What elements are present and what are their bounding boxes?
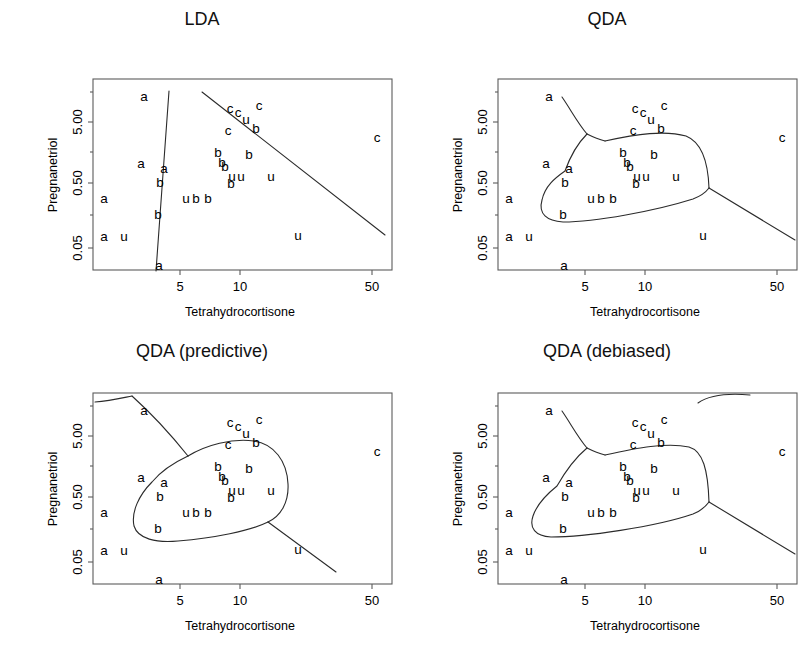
data-point-c: c bbox=[256, 412, 263, 427]
data-point-b: b bbox=[561, 489, 569, 504]
data-point-a: a bbox=[545, 403, 553, 418]
data-point-c: c bbox=[630, 437, 637, 452]
plot-qda: 5 10 50 Tetrahydrocortisone 5.00 0.50 0.… bbox=[405, 0, 809, 331]
data-point-u: u bbox=[647, 112, 655, 127]
qda-debiased-a-upper bbox=[562, 411, 587, 448]
data-point-c: c bbox=[374, 444, 381, 459]
y-axis-ticks bbox=[88, 406, 93, 562]
data-point-a: a bbox=[505, 191, 513, 206]
data-point-b: b bbox=[192, 505, 200, 520]
data-point-u: u bbox=[267, 169, 275, 184]
data-point-c: c bbox=[225, 437, 232, 452]
data-point-a: a bbox=[560, 258, 568, 273]
x-tick-label-10: 10 bbox=[638, 279, 652, 294]
data-point-b: b bbox=[156, 175, 164, 190]
panel-lda: LDA 5 10 50 Tetrahydrocortisone 5.00 0.5… bbox=[0, 0, 404, 331]
y-tick-label-005: 0.05 bbox=[475, 235, 490, 260]
x-tick-label-50: 50 bbox=[365, 593, 379, 608]
y-tick-label-500: 5.00 bbox=[70, 109, 85, 134]
x-tick-label-5: 5 bbox=[176, 279, 183, 294]
y-axis-ticks bbox=[493, 406, 498, 562]
data-point-b: b bbox=[252, 121, 260, 136]
data-point-u: u bbox=[672, 169, 680, 184]
y-tick-label-050: 0.50 bbox=[70, 484, 85, 509]
y-axis-title: Pregnanetriol bbox=[46, 452, 60, 526]
data-point-c: c bbox=[630, 123, 637, 138]
data-point-u: u bbox=[699, 542, 707, 557]
plot-lda: 5 10 50 Tetrahydrocortisone 5.00 0.50 0.… bbox=[0, 0, 404, 331]
x-tick-label-50: 50 bbox=[770, 279, 784, 294]
y-tick-label-500: 5.00 bbox=[70, 423, 85, 448]
data-point-c: c bbox=[225, 123, 232, 138]
y-tick-label-050: 0.50 bbox=[70, 170, 85, 195]
data-point-u: u bbox=[642, 169, 650, 184]
data-point-b: b bbox=[650, 461, 658, 476]
data-point-u: u bbox=[242, 426, 250, 441]
x-tick-label-50: 50 bbox=[365, 279, 379, 294]
data-point-a: a bbox=[155, 258, 163, 273]
data-point-a: a bbox=[545, 89, 553, 104]
data-point-c: c bbox=[661, 412, 668, 427]
x-axis-ticks bbox=[585, 270, 777, 275]
qda-debiased-lower-right bbox=[709, 502, 795, 554]
data-point-u: u bbox=[633, 483, 641, 498]
data-point-b: b bbox=[597, 191, 605, 206]
data-point-a: a bbox=[137, 156, 145, 171]
y-tick-label-050: 0.50 bbox=[475, 484, 490, 509]
data-point-c: c bbox=[235, 419, 242, 434]
y-axis-title: Pregnanetriol bbox=[451, 138, 465, 212]
data-point-u: u bbox=[267, 483, 275, 498]
x-tick-label-10: 10 bbox=[638, 593, 652, 608]
data-point-u: u bbox=[294, 228, 302, 243]
panel-qda-predictive: QDA (predictive) 5 10 50 Tetrahydrocorti… bbox=[0, 332, 404, 663]
y-tick-label-005: 0.05 bbox=[70, 235, 85, 260]
data-point-u: u bbox=[120, 543, 128, 558]
data-point-a: a bbox=[560, 572, 568, 587]
data-points: a a a a a a b b b b b b b b b b c c c c … bbox=[505, 89, 785, 273]
x-tick-label-50: 50 bbox=[770, 593, 784, 608]
qda-boundary-lower-right bbox=[709, 188, 795, 240]
data-point-c: c bbox=[227, 101, 234, 116]
data-point-c: c bbox=[227, 415, 234, 430]
data-point-a: a bbox=[140, 89, 148, 104]
x-axis-title: Tetrahydrocortisone bbox=[185, 305, 295, 319]
data-point-b: b bbox=[609, 505, 617, 520]
x-tick-label-5: 5 bbox=[581, 279, 588, 294]
qda-debiased-top-right-arc bbox=[698, 394, 750, 403]
plot-qda-debiased: 5 10 50 Tetrahydrocortisone 5.00 0.50 0.… bbox=[405, 332, 809, 663]
data-point-b: b bbox=[561, 175, 569, 190]
data-point-a: a bbox=[100, 229, 108, 244]
data-point-u: u bbox=[672, 483, 680, 498]
data-point-u: u bbox=[294, 542, 302, 557]
x-axis-title: Tetrahydrocortisone bbox=[590, 305, 700, 319]
data-point-c: c bbox=[779, 130, 786, 145]
data-points: a a a a a a b b b b b b b b b b c c c c … bbox=[100, 89, 380, 273]
data-point-b: b bbox=[657, 121, 665, 136]
data-point-u: u bbox=[237, 483, 245, 498]
x-tick-label-5: 5 bbox=[176, 593, 183, 608]
x-axis-ticks bbox=[180, 584, 372, 589]
data-point-a: a bbox=[565, 475, 573, 490]
y-tick-label-005: 0.05 bbox=[70, 549, 85, 574]
data-point-a: a bbox=[505, 505, 513, 520]
data-point-b: b bbox=[657, 435, 665, 450]
y-axis-title: Pregnanetriol bbox=[451, 452, 465, 526]
panel-qda: QDA 5 10 50 Tetrahydrocortisone 5.00 0.5… bbox=[405, 0, 809, 331]
data-point-c: c bbox=[374, 130, 381, 145]
x-axis-ticks bbox=[180, 270, 372, 275]
data-point-c: c bbox=[640, 105, 647, 120]
data-point-c: c bbox=[256, 98, 263, 113]
y-axis-ticks bbox=[493, 92, 498, 248]
data-point-u: u bbox=[587, 505, 595, 520]
x-axis-title: Tetrahydrocortisone bbox=[590, 619, 700, 633]
data-point-b: b bbox=[597, 505, 605, 520]
data-point-b: b bbox=[245, 461, 253, 476]
data-point-b: b bbox=[156, 489, 164, 504]
data-point-b: b bbox=[609, 191, 617, 206]
y-tick-label-005: 0.05 bbox=[475, 549, 490, 574]
data-point-c: c bbox=[235, 105, 242, 120]
data-point-u: u bbox=[642, 483, 650, 498]
y-axis-title: Pregnanetriol bbox=[46, 138, 60, 212]
data-point-u: u bbox=[242, 112, 250, 127]
panel-qda-debiased: QDA (debiased) 5 10 50 Tetrahydrocortiso… bbox=[405, 332, 809, 663]
